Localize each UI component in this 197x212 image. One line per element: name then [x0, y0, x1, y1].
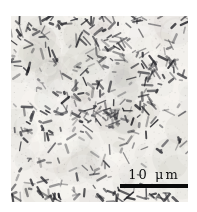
- scale-bar: 10 μm: [120, 165, 188, 188]
- figure-page: 10 μm: [0, 0, 197, 212]
- micrograph: 10 μm: [11, 16, 188, 202]
- scale-bar-line: [120, 184, 188, 188]
- scale-bar-label: 10 μm: [128, 168, 179, 182]
